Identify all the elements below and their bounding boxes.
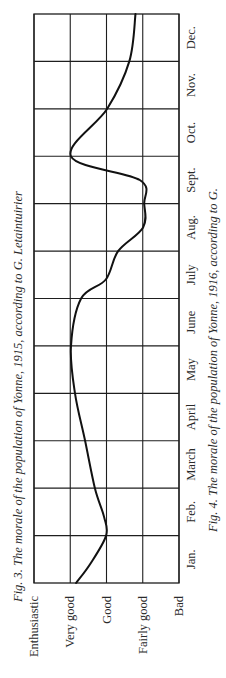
month-label: Sept. — [184, 167, 198, 192]
month-axis-labels: Jan.Feb.MarchAprilMayJuneJulyAug.Sept.Oc… — [184, 26, 198, 569]
month-label: Jan. — [184, 549, 198, 569]
caption-fig4: Fig. 4. The morale of the population of … — [206, 188, 220, 533]
level-label: Very good — [63, 595, 77, 647]
month-label: Nov. — [184, 73, 198, 97]
caption-fig3: Fig. 3. The morale of the population of … — [11, 191, 25, 603]
level-label: Enthusiastic — [27, 596, 41, 658]
month-label: June — [184, 310, 198, 333]
morale-level-labels: BadFairly goodGoodVery goodEnthusiastic — [27, 595, 186, 657]
month-label: Feb. — [184, 501, 198, 523]
month-label: May — [184, 357, 198, 381]
chart-grid — [34, 14, 179, 583]
month-label: March — [184, 447, 198, 480]
level-label: Fairly good — [136, 595, 150, 654]
month-label: July — [184, 264, 198, 286]
level-label: Bad — [172, 595, 186, 616]
month-label: Oct. — [184, 122, 198, 143]
month-label: Aug. — [184, 215, 198, 240]
month-label: April — [184, 403, 198, 430]
month-label: Dec. — [184, 26, 198, 49]
morale-chart-figure: Fig. 3. The morale of the population of … — [0, 0, 226, 678]
level-label: Good — [100, 595, 114, 624]
